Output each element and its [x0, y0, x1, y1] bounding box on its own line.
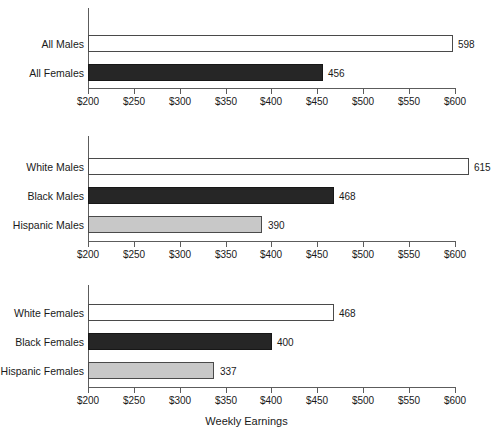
chart-panel-overall: All Males All Females 598 456 $200 $250 … — [0, 8, 493, 113]
x-axis-tick — [409, 242, 410, 247]
category-label: Black Females — [15, 336, 84, 348]
x-axis-tick-label: $300 — [169, 96, 191, 107]
x-axis-tick — [455, 242, 456, 247]
category-label: All Females — [29, 67, 84, 79]
x-axis-tick-label: $450 — [306, 96, 328, 107]
bar-value-label: 400 — [277, 337, 294, 348]
x-axis-tick-label: $300 — [169, 249, 191, 260]
x-axis-tick — [271, 89, 272, 94]
bar-value-label: 456 — [328, 68, 345, 79]
x-axis-tick — [271, 388, 272, 393]
x-axis-tick — [409, 89, 410, 94]
x-axis-tick-label: $400 — [260, 395, 282, 406]
x-axis-tick — [409, 388, 410, 393]
x-axis-tick — [317, 89, 318, 94]
category-label: Hispanic Males — [13, 219, 84, 231]
chart-panel-males: White Males Black Males Hispanic Males 6… — [0, 136, 493, 268]
x-axis-tick — [134, 242, 135, 247]
chart-panel-females: White Females Black Females Hispanic Fem… — [0, 285, 493, 447]
x-axis-tick — [455, 388, 456, 393]
category-label: All Males — [41, 38, 84, 50]
category-label: White Males — [26, 161, 84, 173]
x-axis-tick-label: $450 — [306, 249, 328, 260]
bar-value-label: 598 — [458, 39, 475, 50]
x-axis-tick-label: $250 — [123, 395, 145, 406]
x-axis-tick-label: $450 — [306, 395, 328, 406]
x-axis-tick-label: $300 — [169, 395, 191, 406]
bar-value-label: 337 — [220, 366, 237, 377]
bar-black-males — [88, 187, 334, 204]
bar-black-females — [88, 333, 272, 350]
x-axis-tick-label: $500 — [352, 96, 374, 107]
x-axis-tick — [363, 388, 364, 393]
plot-area-overall: 598 456 $200 $250 $300 $350 $400 $450 $5… — [88, 8, 455, 113]
x-axis-tick-label: $200 — [77, 395, 99, 406]
x-axis-line — [88, 241, 456, 242]
x-axis-line — [88, 387, 456, 388]
x-axis-tick — [134, 89, 135, 94]
x-axis-tick-label: $250 — [123, 249, 145, 260]
x-axis-tick-label: $500 — [352, 249, 374, 260]
x-axis-tick — [226, 89, 227, 94]
bar-value-label: 390 — [268, 220, 285, 231]
x-axis-tick-label: $200 — [77, 249, 99, 260]
category-label: Hispanic Females — [1, 365, 84, 377]
x-axis-tick-label: $350 — [215, 96, 237, 107]
x-axis-tick-label: $550 — [398, 96, 420, 107]
x-axis-tick — [180, 89, 181, 94]
x-axis-tick-label: $400 — [260, 96, 282, 107]
bar-value-label: 615 — [474, 162, 491, 173]
x-axis-tick-label: $350 — [215, 249, 237, 260]
x-axis-tick-label: $550 — [398, 249, 420, 260]
x-axis-tick — [226, 388, 227, 393]
x-axis-tick — [88, 388, 89, 393]
weekly-earnings-chart: All Males All Females 598 456 $200 $250 … — [0, 0, 493, 447]
x-axis-tick — [271, 242, 272, 247]
x-axis-line — [88, 88, 456, 89]
x-axis-tick — [317, 388, 318, 393]
x-axis-tick — [226, 242, 227, 247]
x-axis-tick — [88, 89, 89, 94]
x-axis-tick-label: $500 — [352, 395, 374, 406]
category-label: Black Males — [27, 190, 84, 202]
x-axis-tick — [134, 388, 135, 393]
x-axis-tick-label: $600 — [444, 96, 466, 107]
category-label: White Females — [14, 307, 84, 319]
x-axis-title: Weekly Earnings — [0, 415, 493, 428]
x-axis-tick — [180, 242, 181, 247]
x-axis-tick-label: $350 — [215, 395, 237, 406]
bar-hispanic-males — [88, 216, 262, 233]
x-axis-tick — [363, 242, 364, 247]
bar-hispanic-females — [88, 362, 214, 379]
x-axis-tick-label: $400 — [260, 249, 282, 260]
bar-all-females — [88, 64, 323, 81]
x-axis-tick — [455, 89, 456, 94]
x-axis-tick-label: $600 — [444, 395, 466, 406]
x-axis-tick — [88, 242, 89, 247]
x-axis-tick-label: $600 — [444, 249, 466, 260]
x-axis-tick — [317, 242, 318, 247]
bar-value-label: 468 — [339, 308, 356, 319]
x-axis-tick-label: $250 — [123, 96, 145, 107]
bar-all-males — [88, 35, 453, 52]
plot-area-males: 615 468 390 $200 $250 $300 $350 $400 $45… — [88, 136, 455, 268]
x-axis-tick-label: $200 — [77, 96, 99, 107]
bar-white-females — [88, 304, 334, 321]
x-axis-tick-label: $550 — [398, 395, 420, 406]
x-axis-tick — [180, 388, 181, 393]
bar-white-males — [88, 158, 469, 175]
x-axis-tick — [363, 89, 364, 94]
bar-value-label: 468 — [339, 191, 356, 202]
